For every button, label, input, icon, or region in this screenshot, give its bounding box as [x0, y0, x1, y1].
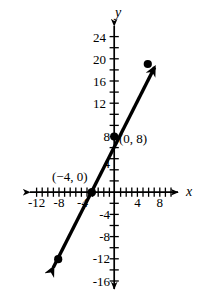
annotation-point-0-8: (0, 8)	[119, 131, 147, 146]
y-tick-label-8: 8	[104, 129, 111, 144]
x-tick-label-neg12: -12	[28, 195, 45, 210]
data-point-6-20	[144, 60, 152, 68]
y-tick-label-20: 20	[93, 52, 106, 67]
y-tick-label-12: 12	[93, 96, 106, 111]
data-point-neg10-12	[54, 255, 62, 263]
linear-graph-svg: -12 -8 -4 4 8 24 20 16 12 8 4 -4 -8 -12 …	[0, 0, 202, 305]
y-tick-label-4: 4	[104, 156, 111, 171]
annotation-point-neg4-0: (−4, 0)	[52, 169, 88, 184]
data-point-0-8	[110, 133, 118, 141]
y-tick-labels-group: 24 20 16 12 8 4 -4 -8 -12 -16	[93, 30, 111, 289]
y-tick-label-neg12: -12	[93, 251, 110, 266]
y-tick-label-neg4: -4	[99, 207, 110, 222]
x-tick-labels-group: -12 -8 -4 4 8	[28, 195, 163, 210]
x-axis-label: x	[185, 184, 193, 199]
x-tick-label-neg4: -4	[77, 195, 88, 210]
data-point-neg4-0	[88, 188, 97, 197]
y-tick-label-neg16: -16	[93, 274, 111, 289]
x-tick-label-4: 4	[134, 195, 141, 210]
y-tick-label-neg8: -8	[99, 229, 110, 244]
y-axis-label: y	[113, 5, 122, 20]
x-tick-label-8: 8	[157, 195, 164, 210]
y-tick-label-16: 16	[93, 74, 107, 89]
y-tick-label-24: 24	[93, 30, 107, 45]
coordinate-plane-figure: -12 -8 -4 4 8 24 20 16 12 8 4 -4 -8 -12 …	[0, 0, 202, 305]
x-tick-label-neg8: -8	[54, 195, 65, 210]
